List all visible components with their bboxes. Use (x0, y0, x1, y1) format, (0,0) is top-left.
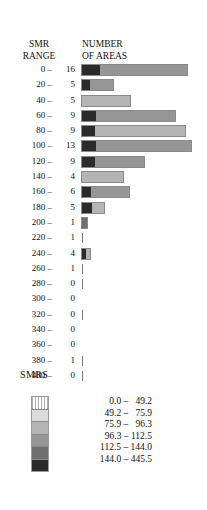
table-row: 360 –0 (0, 338, 207, 353)
legend-label: 144.0 – 445.5 (52, 454, 152, 466)
smr-range-label: 240 – (0, 248, 52, 258)
area-count-value: 0 (56, 309, 75, 319)
bar-segment (82, 126, 95, 136)
area-count-value: 5 (56, 79, 75, 89)
legend-label: 0.0 – 49.2 (52, 396, 152, 408)
smr-range-label: 320 – (0, 309, 52, 319)
stacked-bar (82, 264, 83, 274)
legend-swatch (31, 434, 49, 447)
bar-segment (82, 172, 123, 182)
table-row: 20 –5 (0, 78, 207, 93)
smr-range-label: 140 – (0, 171, 52, 181)
stacked-bar (82, 233, 83, 243)
smr-range-label: 180 – (0, 202, 52, 212)
area-count-value: 9 (56, 110, 75, 120)
number-of-areas-header-line2: OF AREAS (82, 50, 192, 62)
area-count-value: 13 (56, 140, 75, 150)
area-count-value: 1 (56, 263, 75, 273)
legend-label: 49.2 – 75.9 (52, 408, 152, 420)
bar-segment (82, 218, 87, 228)
bar-segment (82, 310, 83, 320)
area-count-value: 5 (56, 202, 75, 212)
table-row: 260 –1 (0, 262, 207, 277)
bar-segment (95, 157, 144, 167)
table-row: 280 –0 (0, 277, 207, 292)
bar-segment (82, 111, 96, 121)
area-count-value: 5 (56, 95, 75, 105)
bar-segment (82, 203, 92, 213)
stacked-bar (82, 187, 129, 197)
smr-range-label: 20 – (0, 79, 52, 89)
stacked-bar (82, 126, 185, 136)
table-row: 40 –5 (0, 94, 207, 109)
area-count-value: 0 (56, 278, 75, 288)
stacked-bar (82, 356, 83, 366)
stacked-bar (82, 96, 130, 106)
area-count-value: 1 (56, 232, 75, 242)
table-row: 120 –9 (0, 155, 207, 170)
area-count-value: 0 (56, 324, 75, 334)
legend-swatch (31, 459, 49, 473)
table-row: 220 –1 (0, 231, 207, 246)
area-count-value: 16 (56, 64, 75, 74)
stacked-bar (82, 157, 144, 167)
legend-title: SMRS (20, 369, 48, 380)
legend-label: 96.3 – 112.5 (52, 431, 152, 443)
table-row: 160 –6 (0, 185, 207, 200)
bar-segment (95, 126, 185, 136)
stacked-bar (82, 218, 87, 228)
smr-range-label: 160 – (0, 186, 52, 196)
number-of-areas-header: NUMBER OF AREAS (82, 38, 192, 62)
area-count-value: 0 (56, 370, 75, 380)
table-row: 340 –0 (0, 323, 207, 338)
legend-label: 112.5 – 144.0 (52, 442, 152, 454)
smr-range-label: 80 – (0, 125, 52, 135)
stacked-bar (82, 172, 123, 182)
table-row: 200 –1 (0, 216, 207, 231)
bar-segment (82, 187, 91, 197)
area-count-value: 9 (56, 125, 75, 135)
smr-range-header-line1: SMR (0, 38, 78, 50)
legend-swatch-column (31, 396, 47, 472)
stacked-bar (82, 279, 83, 289)
smr-range-label: 120 – (0, 156, 52, 166)
number-of-areas-header-line1: NUMBER (82, 38, 192, 50)
table-row: 300 –0 (0, 292, 207, 307)
table-row: 140 –4 (0, 170, 207, 185)
legend-swatch (31, 396, 49, 409)
area-count-value: 4 (56, 248, 75, 258)
smr-range-label: 0 – (0, 64, 52, 74)
table-row: 80 –9 (0, 124, 207, 139)
table-row: 100 –13 (0, 139, 207, 154)
bar-segment (96, 111, 175, 121)
smr-range-label: 260 – (0, 263, 52, 273)
bar-segment (96, 141, 191, 151)
bar-segment (92, 203, 104, 213)
bar-segment (82, 264, 83, 274)
area-count-value: 4 (56, 171, 75, 181)
table-row: 240 –4 (0, 247, 207, 262)
smr-range-label: 40 – (0, 95, 52, 105)
smr-range-label: 60 – (0, 110, 52, 120)
area-count-value: 1 (56, 355, 75, 365)
bar-segment (82, 141, 96, 151)
smr-range-label: 200 – (0, 217, 52, 227)
table-row: 320 –0 (0, 308, 207, 323)
area-count-value: 1 (56, 217, 75, 227)
area-count-value: 9 (56, 156, 75, 166)
table-row: 180 –5 (0, 201, 207, 216)
bar-segment (82, 279, 83, 289)
smr-range-label: 340 – (0, 324, 52, 334)
bar-segment (82, 233, 83, 243)
smr-range-label: 300 – (0, 293, 52, 303)
stacked-bar (82, 203, 104, 213)
area-count-value: 0 (56, 339, 75, 349)
stacked-bar (82, 111, 175, 121)
smr-range-label: 380 – (0, 355, 52, 365)
stacked-bar (82, 249, 90, 259)
stacked-bar (82, 65, 187, 75)
histogram-rows: 0 –1620 –540 –560 –980 –9100 –13120 –914… (0, 63, 207, 384)
area-count-value: 6 (56, 186, 75, 196)
bar-segment (82, 65, 100, 75)
bar-segment (82, 371, 83, 381)
